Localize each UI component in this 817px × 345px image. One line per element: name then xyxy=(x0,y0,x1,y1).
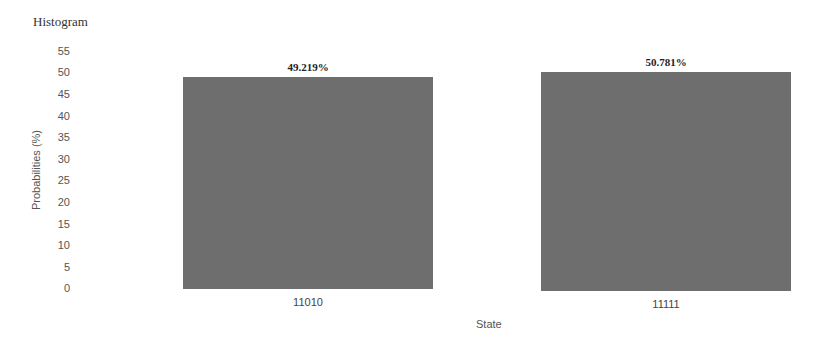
y-tick: 50 xyxy=(40,66,70,78)
x-tick: 11111 xyxy=(541,298,791,310)
y-tick: 0 xyxy=(40,282,70,294)
y-tick: 40 xyxy=(40,110,70,122)
bar-value-label: 50.781% xyxy=(541,56,791,68)
y-tick: 35 xyxy=(40,131,70,143)
y-tick: 30 xyxy=(40,153,70,165)
y-tick: 15 xyxy=(40,218,70,230)
bar xyxy=(541,72,791,291)
bar xyxy=(183,77,433,289)
y-tick: 10 xyxy=(40,239,70,251)
x-tick: 11010 xyxy=(183,296,433,308)
y-tick: 5 xyxy=(40,261,70,273)
y-axis-label: Probabilities (%) xyxy=(30,130,42,210)
y-tick: 25 xyxy=(40,174,70,186)
y-tick: 55 xyxy=(40,45,70,57)
bar-value-label: 49.219% xyxy=(183,61,433,73)
y-tick: 20 xyxy=(40,196,70,208)
x-axis-label: State xyxy=(476,318,502,330)
chart-title: Histogram xyxy=(33,14,88,30)
y-tick: 45 xyxy=(40,88,70,100)
